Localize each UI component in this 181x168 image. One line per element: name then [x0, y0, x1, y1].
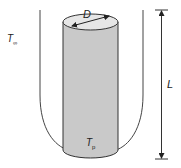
ambient-temperature-label: T∞: [7, 33, 17, 46]
cylinder-boundary-layer-diagram: D T∞ Tp L: [0, 0, 181, 168]
length-label: L: [167, 78, 173, 90]
diameter-label: D: [83, 8, 91, 20]
